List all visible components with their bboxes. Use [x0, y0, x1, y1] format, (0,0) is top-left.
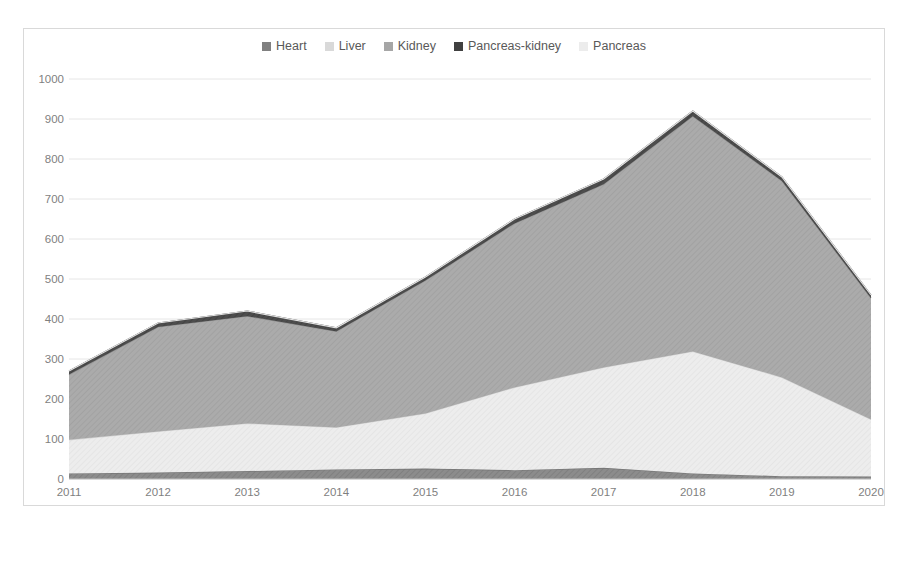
- x-axis-tick: 2019: [752, 486, 812, 498]
- x-axis-tick: 2012: [128, 486, 188, 498]
- x-axis-tick: 2011: [39, 486, 99, 498]
- x-axis-tick: 2020: [841, 486, 901, 498]
- x-axis-tick: 2015: [395, 486, 455, 498]
- x-axis-tick: 2018: [663, 486, 723, 498]
- x-axis-tick: 2016: [485, 486, 545, 498]
- plot-area: 01002003004005006007008009001000 2011201…: [24, 29, 884, 505]
- x-axis-tick: 2014: [306, 486, 366, 498]
- x-axis-tick: 2017: [574, 486, 634, 498]
- chart-container: Heart Liver Kidney Pancreas-kidney Pancr…: [23, 28, 885, 506]
- x-axis-tick: 2013: [217, 486, 277, 498]
- x-axis-labels: 2011201220132014201520162017201820192020: [24, 29, 884, 505]
